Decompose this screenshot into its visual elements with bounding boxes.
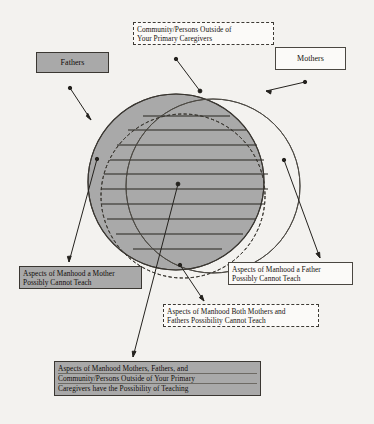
label-line: Aspects of Manhood a Father: [232, 265, 349, 274]
label-mothers[interactable]: Mothers: [275, 47, 346, 70]
label-line: Your Primary Caregivers: [137, 34, 270, 43]
community-leader: [176, 59, 200, 91]
label-line: Community/Persons Outside of Your Primar…: [58, 373, 257, 383]
father-cannot-leader: [284, 160, 320, 258]
label-line: Community/Persons Outside of: [137, 25, 270, 34]
venn-diagram: Fathers Mothers Community/Persons Outsid…: [0, 0, 374, 424]
label-father-cannot-teach[interactable]: Aspects of Manhood a Father Possibly Can…: [228, 262, 353, 285]
label-both-cannot-teach[interactable]: Aspects of Manhood Both Mothers and Fath…: [163, 304, 319, 327]
label-community-outside-caregivers[interactable]: Community/Persons Outside of Your Primar…: [133, 22, 274, 45]
label-all-can-teach[interactable]: Aspects of Manhood Mothers, Fathers, and…: [54, 361, 261, 396]
label-line: Aspects of Manhood a Mother: [23, 269, 138, 278]
label-line: Fathers Possibility Cannot Teach: [167, 316, 315, 325]
fathers-circle: [88, 94, 264, 270]
label-line: Aspects of Manhood Both Mothers and: [167, 307, 315, 316]
label-fathers[interactable]: Fathers: [36, 52, 109, 73]
label-line: Possibly Cannot Teach: [23, 278, 138, 287]
label-line: Aspects of Manhood Mothers, Fathers, and: [58, 364, 257, 373]
label-line: Caregivers have the Possibility of Teach…: [58, 383, 257, 393]
mothers-leader: [266, 82, 305, 91]
label-line: Possibly Cannot Teach: [232, 274, 349, 283]
label-mother-cannot-teach[interactable]: Aspects of Manhood a Mother Possibly Can…: [19, 266, 142, 289]
